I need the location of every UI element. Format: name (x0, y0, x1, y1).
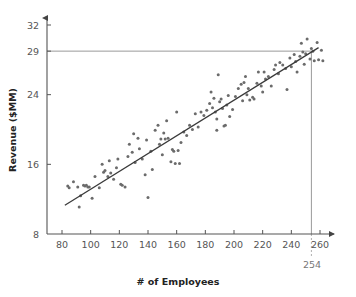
y-axis-title: Revenue ($MM) (7, 88, 18, 172)
x-tick-label-120: 120 (110, 239, 128, 250)
data-point (320, 49, 323, 52)
x-tick-label-80: 80 (56, 239, 68, 250)
data-point (179, 141, 182, 144)
data-point (237, 87, 240, 90)
data-point (202, 114, 205, 117)
x-reference-annotation-254: 254 (303, 259, 321, 270)
data-point (124, 185, 127, 188)
data-point (308, 57, 311, 60)
data-point (316, 41, 319, 44)
data-point (317, 58, 320, 61)
data-point (281, 64, 284, 67)
data-point (178, 162, 181, 165)
data-point (288, 57, 291, 60)
data-point (270, 84, 273, 87)
data-point (167, 137, 170, 140)
data-point (215, 129, 218, 132)
data-point (144, 173, 147, 176)
data-point (131, 151, 134, 154)
data-point (109, 172, 112, 175)
data-point (243, 81, 246, 84)
data-point (91, 197, 94, 200)
y-tick-label-32: 32 (27, 20, 39, 31)
data-point (217, 73, 220, 76)
data-point (300, 42, 303, 45)
data-point (136, 137, 139, 140)
data-point (244, 75, 247, 78)
data-point (78, 206, 81, 209)
data-point (296, 71, 299, 74)
data-point (191, 128, 194, 131)
data-point (93, 175, 96, 178)
data-point (164, 138, 167, 141)
x-tick-label-100: 100 (82, 239, 100, 250)
regression-trend-line (65, 48, 319, 206)
data-point (263, 71, 266, 74)
top-crop-edge (0, 0, 356, 3)
y-tick-label-8: 8 (33, 229, 39, 240)
data-point (194, 112, 197, 115)
data-point (228, 115, 231, 118)
data-point (68, 186, 71, 189)
data-point (298, 55, 301, 58)
plot-canvas: 80100120140160180200220240260816242932 #… (0, 0, 356, 297)
data-point (224, 124, 227, 127)
data-point (211, 106, 214, 109)
data-point (76, 185, 79, 188)
data-point (172, 150, 175, 153)
data-point (98, 186, 101, 189)
data-point (212, 97, 215, 100)
data-point (218, 100, 221, 103)
data-point (162, 131, 165, 134)
x-tick-label-160: 160 (168, 239, 186, 250)
data-point (138, 147, 141, 150)
data-point (174, 162, 177, 165)
data-point (200, 111, 203, 114)
data-point (116, 158, 119, 161)
data-point (128, 143, 131, 146)
data-point (215, 118, 218, 121)
data-point (112, 178, 115, 181)
data-point (104, 169, 107, 172)
data-point (205, 109, 208, 112)
data-point (293, 53, 296, 56)
data-point (177, 149, 180, 152)
y-tick-label-16: 16 (27, 159, 39, 170)
data-point (126, 155, 129, 158)
data-point (303, 63, 306, 66)
data-point (261, 91, 264, 94)
data-point (241, 99, 244, 102)
data-point (245, 93, 248, 96)
data-point (197, 125, 200, 128)
data-point (175, 111, 178, 114)
data-point (286, 88, 289, 91)
data-point (310, 47, 313, 50)
data-point (273, 68, 276, 71)
reference-lines (47, 51, 311, 256)
data-point (253, 98, 256, 101)
y-tick-label-24: 24 (27, 89, 39, 100)
data-point (321, 59, 324, 62)
data-point (159, 138, 162, 141)
data-point (132, 132, 135, 135)
scatter-chart: 80100120140160180200220240260816242932 #… (0, 0, 356, 297)
data-point (255, 82, 258, 85)
data-point (240, 83, 243, 86)
data-point (151, 168, 154, 171)
x-tick-label-200: 200 (225, 239, 243, 250)
data-point (231, 108, 234, 111)
data-point (121, 184, 124, 187)
data-point (248, 98, 251, 101)
data-point (115, 166, 118, 169)
data-point (154, 129, 157, 132)
data-point (208, 102, 211, 105)
x-axis-title: # of Employees (137, 276, 220, 287)
data-point (161, 153, 164, 156)
data-point (313, 59, 316, 62)
data-point (257, 71, 260, 74)
data-point (72, 180, 75, 183)
x-tick-label-180: 180 (196, 239, 214, 250)
data-point (145, 138, 148, 141)
axis-ticks (47, 25, 320, 234)
data-point (188, 124, 191, 127)
